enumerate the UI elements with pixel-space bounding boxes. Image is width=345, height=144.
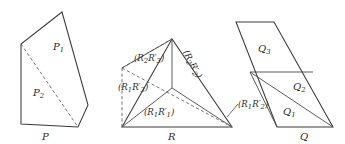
- region-label-r1r1: (R1R′1): [144, 107, 174, 119]
- r-segment-center-right: [172, 88, 232, 127]
- region-label-p1: P1: [52, 41, 64, 54]
- region-label-q1: Q1: [283, 106, 296, 119]
- region-label-q3: Q3: [258, 43, 271, 56]
- region-label-r1r3: (R1R′3): [118, 82, 148, 94]
- panel-q: Q3 Q2 Q1 Q: [236, 22, 333, 142]
- caption-p: P: [41, 131, 49, 142]
- region-label-q2: Q2: [293, 81, 306, 94]
- figure-canvas: P1 P2 P (R2R′3) (R1R′3) (R1R′1): [0, 0, 345, 144]
- region-label-p2: P2: [32, 87, 44, 100]
- caption-r: R: [167, 131, 176, 142]
- p-pentagon-outline: [21, 12, 88, 127]
- panel-r: (R2R′3) (R1R′3) (R1R′1) (R2R′2) (R1R′2) …: [118, 39, 268, 142]
- caption-q: Q: [300, 131, 308, 142]
- dissection-figure: P1 P2 P (R2R′3) (R1R′3) (R1R′1): [0, 0, 345, 144]
- region-label-r2r2: (R2R′2): [179, 48, 204, 80]
- p-dashed-diagonal: [21, 44, 78, 127]
- panel-p: P1 P2 P: [21, 12, 88, 142]
- region-label-r2r3: (R2R′3): [134, 53, 164, 65]
- r-callout-leader: [227, 104, 238, 117]
